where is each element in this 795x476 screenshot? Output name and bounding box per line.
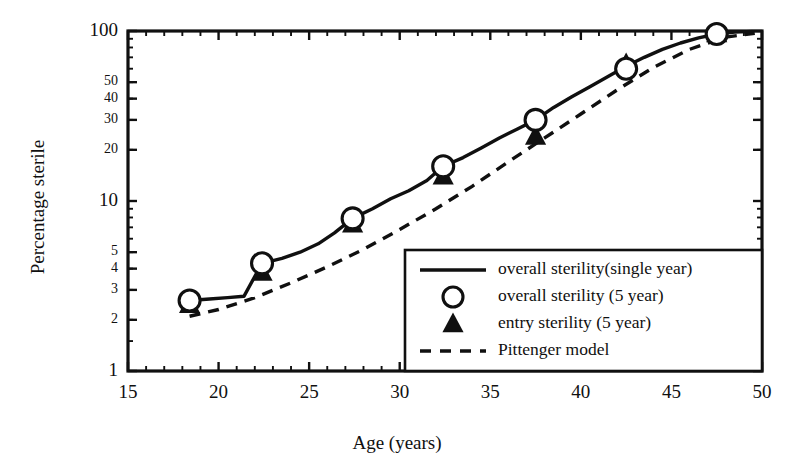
chart-figure: Percentage sterile Age (years) 123451020…: [0, 0, 795, 476]
y-tick-label: 40: [52, 90, 118, 106]
x-tick-label: 20: [196, 381, 242, 403]
legend-entry-label: overall sterility (5 year): [498, 285, 664, 306]
y-tick-label: 4: [52, 260, 118, 276]
legend-entry-label: Pittenger model: [498, 339, 609, 360]
x-tick-label: 15: [105, 381, 151, 403]
y-tick-label: 2: [52, 311, 118, 327]
x-axis-title: Age (years): [287, 432, 507, 454]
legend-entry-label: entry sterility (5 year): [498, 312, 651, 333]
y-tick-label: 30: [52, 111, 118, 127]
x-tick-label: 25: [286, 381, 332, 403]
y-tick-label: 1: [52, 359, 118, 381]
y-tick-label: 100: [52, 19, 118, 41]
y-tick-label: 20: [52, 141, 118, 157]
chart-canvas: [0, 0, 795, 476]
x-tick-label: 30: [377, 381, 423, 403]
legend-entry-label: overall sterility(single year): [498, 258, 692, 279]
y-tick-label: 5: [52, 243, 118, 259]
y-tick-label: 10: [52, 189, 118, 211]
y-tick-label: 3: [52, 281, 118, 297]
x-tick-label: 45: [648, 381, 694, 403]
y-tick-label: 50: [52, 73, 118, 89]
y-axis-title: Percentage sterile: [27, 112, 49, 302]
x-tick-label: 50: [739, 381, 785, 403]
x-tick-label: 40: [558, 381, 604, 403]
x-tick-label: 35: [467, 381, 513, 403]
